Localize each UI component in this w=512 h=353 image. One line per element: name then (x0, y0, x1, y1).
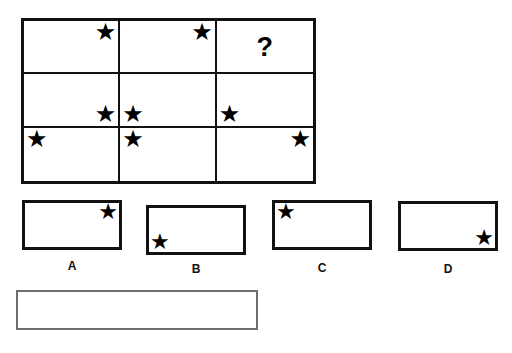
star-icon: ★ (122, 128, 144, 151)
option-a[interactable]: ★ (22, 200, 122, 250)
matrix-cell-r3c2: ★ (120, 128, 216, 181)
matrix-cell-r3c1: ★ (24, 128, 120, 181)
star-icon: ★ (276, 201, 296, 223)
matrix-cell-r3c3: ★ (217, 128, 313, 181)
star-icon: ★ (219, 102, 241, 126)
matrix-cell-r2c2: ★ (120, 74, 216, 127)
star-icon: ★ (474, 227, 494, 249)
matrix-cell-r2c1: ★ (24, 74, 120, 127)
question-mark: ? (217, 31, 313, 62)
star-icon: ★ (95, 102, 117, 126)
star-icon: ★ (95, 21, 117, 44)
option-b[interactable]: ★ (146, 205, 246, 255)
option-d-label: D (398, 262, 498, 276)
star-icon: ★ (191, 21, 213, 44)
matrix-cell-r1c3-question: ? (217, 21, 313, 74)
matrix-cell-r1c2: ★ (120, 21, 216, 74)
option-c[interactable]: ★ (272, 200, 372, 250)
star-icon: ★ (150, 231, 170, 253)
option-a-label: A (22, 259, 122, 273)
matrix-cell-r1c1: ★ (24, 21, 120, 74)
star-icon: ★ (122, 102, 144, 126)
option-d[interactable]: ★ (398, 201, 498, 251)
matrix-cell-r2c3: ★ (217, 74, 313, 127)
matrix-grid: ★ ★ ? ★ ★ ★ ★ ★ ★ (21, 18, 316, 184)
option-b-label: B (146, 262, 246, 276)
answer-box[interactable] (16, 290, 258, 330)
star-icon: ★ (98, 201, 118, 223)
star-icon: ★ (26, 128, 48, 151)
option-c-label: C (272, 261, 372, 275)
star-icon: ★ (289, 128, 311, 151)
